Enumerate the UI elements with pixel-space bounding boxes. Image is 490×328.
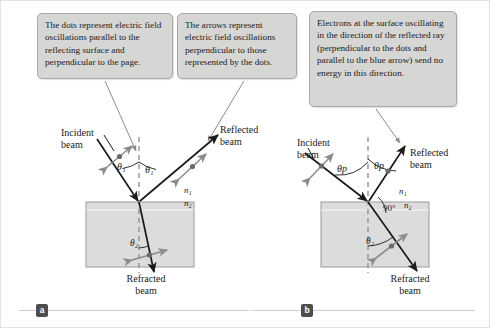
panel-b-badge: b: [301, 304, 313, 317]
panel-a-refracted-beam-label: Refracted beam: [111, 273, 181, 296]
panel-a-angle-incidence-label: θ₁: [117, 161, 125, 173]
callout-electrons-explanation: Electrons at the surface oscillating in …: [309, 11, 457, 107]
callout-dots-explanation: The dots represent electric field oscill…: [37, 13, 173, 79]
panel-a-diagram: [86, 81, 244, 273]
panel-b-angle-reflection-label: θp: [374, 160, 384, 172]
panel-a-index-below-label: n₂: [184, 198, 192, 210]
panel-a-incident-dot: [117, 154, 122, 159]
panel-a-incident-beam-label: Incident beam: [61, 127, 94, 150]
panel-b-incident-ray: [305, 153, 367, 201]
panel-b-angle-refraction-label: θ₂: [366, 236, 374, 248]
figure-brewster-angle-polarization: The dots represent electric field oscill…: [0, 0, 490, 328]
panel-a-incident-label-leader: [104, 135, 114, 151]
panel-b-diagram: [305, 109, 429, 273]
panel-a-angle-refraction-label: θ₂: [130, 238, 138, 250]
panel-a-angle-reflection-label: θ₁: [145, 164, 153, 176]
panel-a-reflected-dot: [190, 164, 195, 169]
callout-arrows-explanation: The arrows represent electric field osci…: [177, 13, 297, 79]
panel-b-reflected-dot: [385, 168, 390, 173]
panel-b-index-below-label: n₂: [404, 200, 412, 212]
panel-b-reflected-beam-label: Reflected beam: [410, 147, 448, 170]
panel-b-refracted-beam-label: Refracted beam: [374, 273, 446, 296]
panel-a-refracted-dot: [147, 252, 152, 257]
leader-line-electrons: [376, 109, 400, 143]
panel-b-incident-beam-label: Incident beam: [297, 137, 330, 160]
panel-a-badge: a: [36, 304, 48, 317]
panel-b-refracted-dot: [389, 243, 394, 248]
panel-b-angle-incidence-label: θp: [337, 163, 347, 175]
panel-a-index-above-label: n₁: [184, 185, 192, 197]
panel-b-right-angle-label: 90°: [383, 203, 396, 215]
leader-line-dots: [105, 81, 136, 151]
panel-b-index-above-label: n₁: [399, 186, 407, 198]
panel-b-incident-dot: [319, 163, 324, 168]
panel-a-reflected-beam-label: Reflected beam: [220, 124, 258, 147]
